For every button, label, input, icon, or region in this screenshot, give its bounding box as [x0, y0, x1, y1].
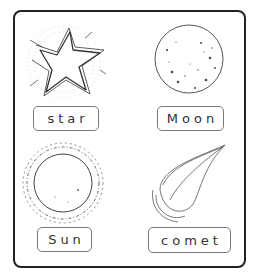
star-icon	[28, 26, 106, 98]
comet-icon	[152, 145, 225, 222]
label-moon: Moon	[157, 106, 224, 131]
sun-icon	[23, 143, 103, 223]
label-sun: Sun	[37, 227, 92, 252]
label-star: star	[33, 106, 99, 131]
moon-icon	[155, 25, 223, 93]
label-comet: comet	[148, 227, 231, 253]
